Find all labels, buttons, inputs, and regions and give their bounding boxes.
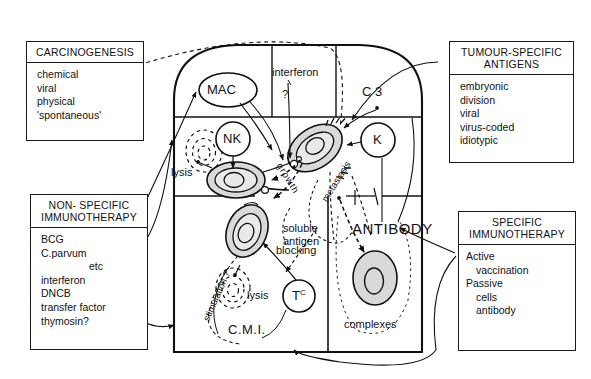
- list-item: viral: [460, 107, 567, 121]
- figure-canvas: CARCINOGENESIS chemical viral physical '…: [0, 0, 591, 379]
- list-item: Active: [466, 250, 569, 264]
- list-item: BCG: [41, 233, 141, 247]
- tumour-cell-antibody: [353, 251, 397, 305]
- label-lysis-lower: lysis: [247, 289, 268, 301]
- label-mac: MAC: [207, 82, 236, 97]
- list-item: division: [460, 94, 567, 108]
- list-item: thymosin?: [41, 315, 141, 329]
- list-item: Passive: [466, 277, 569, 291]
- box-tsa-body: embryonic division viral virus-coded idi…: [450, 75, 573, 153]
- list-item: antibody: [466, 304, 569, 318]
- header-line-2: IMMUNOTHERAPY: [33, 211, 145, 223]
- box-carcinogenesis-header: CARCINOGENESIS: [27, 42, 143, 63]
- label-interferon-question: ?: [282, 88, 288, 100]
- list-item: virus-coded: [460, 121, 567, 135]
- label-soluble-antigen-line1: soluble: [283, 222, 318, 234]
- list-item: chemical: [37, 68, 137, 82]
- list-item: DNCB: [41, 287, 141, 301]
- label-cmi: C.M.I.: [228, 322, 266, 337]
- box-specific-immunotherapy: SPECIFIC IMMUNOTHERAPY Active vaccinatio…: [458, 211, 576, 351]
- label-nk: NK: [223, 131, 241, 146]
- label-antibody: ANTIBODY: [352, 220, 433, 237]
- header-line-1: SPECIFIC: [461, 216, 573, 228]
- list-item: C.parvum: [41, 247, 141, 261]
- header-line-1: NON- SPECIFIC: [33, 199, 145, 211]
- label-interferon: interferon: [272, 66, 318, 78]
- box-non-specific-immunotherapy: NON- SPECIFIC IMMUNOTHERAPY BCG C.parvum…: [30, 194, 148, 350]
- box-specimmuno-header: SPECIFIC IMMUNOTHERAPY: [459, 212, 575, 245]
- box-specimmuno-body: Active vaccination Passive cells antibod…: [459, 245, 575, 323]
- box-tumour-specific-antigens: TUMOUR-SPECIFIC ANTIGENS embryonic divis…: [449, 41, 574, 163]
- list-item: 'spontaneous': [37, 109, 137, 123]
- list-item: embryonic: [460, 80, 567, 94]
- list-item: transfer factor: [41, 301, 141, 315]
- header-line-2: ANTIGENS: [452, 58, 571, 70]
- label-tc: TC: [292, 288, 306, 303]
- label-blocking: blocking: [276, 244, 316, 256]
- list-item: idiotypic: [460, 134, 567, 148]
- label-lysis-upper: lysis: [171, 166, 192, 178]
- list-item: interferon: [41, 274, 141, 288]
- list-item: viral: [37, 82, 137, 96]
- box-nonspec-header: NON- SPECIFIC IMMUNOTHERAPY: [31, 195, 147, 228]
- tumour-cell-left: [207, 162, 265, 198]
- list-item: physical: [37, 95, 137, 109]
- box-nonspec-body: BCG C.parvum etc interferon DNCB transfe…: [31, 228, 147, 333]
- box-carcinogenesis: CARCINOGENESIS chemical viral physical '…: [26, 41, 144, 141]
- list-item: vaccination: [466, 264, 569, 278]
- list-item: etc: [41, 260, 141, 274]
- header-line-1: TUMOUR-SPECIFIC: [452, 46, 571, 58]
- label-k: K: [373, 132, 382, 147]
- box-carcinogenesis-body: chemical viral physical 'spontaneous': [27, 63, 143, 127]
- label-complexes: complexes: [344, 318, 397, 330]
- list-item: cells: [466, 291, 569, 305]
- header-line-2: IMMUNOTHERAPY: [461, 228, 573, 240]
- box-tsa-header: TUMOUR-SPECIFIC ANTIGENS: [450, 42, 573, 75]
- label-c3: C 3: [362, 84, 382, 99]
